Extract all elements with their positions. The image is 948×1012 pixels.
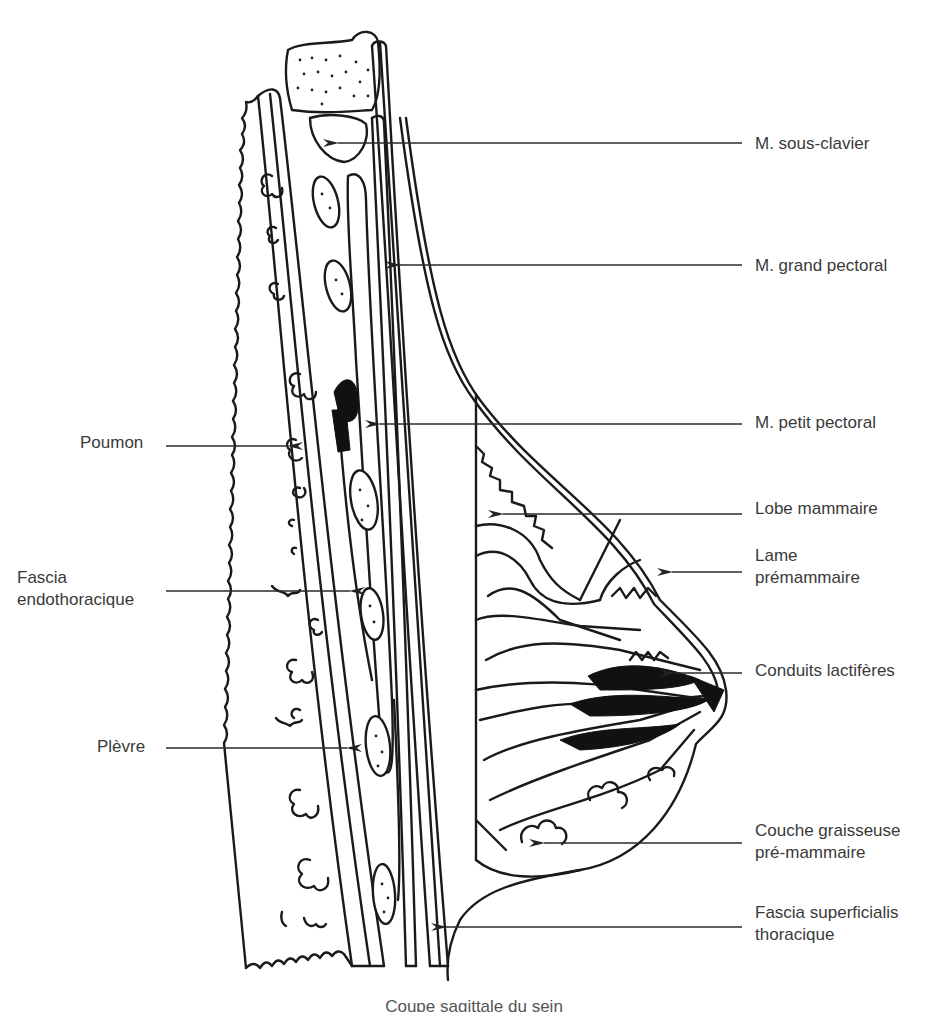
label-m-sous-clavier: M. sous-clavier xyxy=(755,133,869,155)
label-lobe-mammaire: Lobe mammaire xyxy=(755,498,878,520)
breast-outline xyxy=(400,118,727,980)
label-line: Fascia superficialis xyxy=(755,902,899,924)
label-line: prémammaire xyxy=(755,567,860,589)
leader-lines xyxy=(166,143,742,927)
label-line: thoracique xyxy=(755,924,899,946)
label-poumon: Poumon xyxy=(80,432,143,454)
anatomy-figure: M. sous-clavier M. grand pectoral M. pet… xyxy=(0,0,948,1012)
label-plevre: Plèvre xyxy=(97,736,145,758)
label-fascia-endothoracique: Fascia endothoracique xyxy=(17,567,134,611)
label-line: Couche graisseuse xyxy=(755,820,901,842)
label-m-grand-pectoral: M. grand pectoral xyxy=(755,255,887,277)
label-line: endothoracique xyxy=(17,589,134,611)
figure-caption: Coupe sagittale du sein xyxy=(300,996,648,1012)
label-line: Fascia xyxy=(17,567,134,589)
label-conduits-lactiferes: Conduits lactifères xyxy=(755,660,895,682)
label-line: Lame xyxy=(755,545,860,567)
label-fascia-superficialis-thoracique: Fascia superficialis thoracique xyxy=(755,902,899,946)
label-m-petit-pectoral: M. petit pectoral xyxy=(755,412,876,434)
label-couche-graisseuse-premammaire: Couche graisseuse pré-mammaire xyxy=(755,820,901,864)
label-lame-premammaire: Lame prémammaire xyxy=(755,545,860,589)
label-line: pré-mammaire xyxy=(755,842,901,864)
mammary-lobes-ducts xyxy=(476,446,724,850)
